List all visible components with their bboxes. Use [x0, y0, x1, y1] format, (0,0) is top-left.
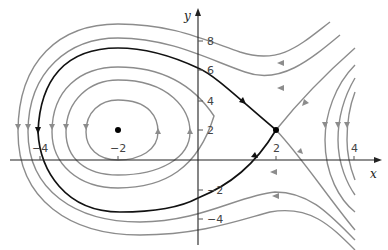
outer-orbits	[18, 22, 355, 250]
flow-arrows	[15, 60, 350, 199]
svg-text:−4: −4	[207, 213, 223, 226]
svg-text:6: 6	[207, 64, 214, 77]
svg-text:8: 8	[207, 35, 214, 48]
right-orbits	[325, 65, 355, 212]
x-ticks: −4 −2 2 4	[32, 142, 358, 160]
saddle-point	[273, 127, 279, 133]
svg-text:2: 2	[273, 142, 280, 155]
svg-text:−2: −2	[207, 184, 223, 197]
y-axis-label: y	[183, 9, 191, 23]
closed-orbits	[52, 67, 214, 188]
svg-text:4: 4	[207, 95, 214, 108]
saddle-branches	[276, 48, 355, 230]
y-ticks: 8 6 4 2 −2 −4	[198, 35, 223, 226]
svg-text:2: 2	[207, 124, 214, 137]
center-point	[115, 127, 121, 133]
svg-text:4: 4	[351, 142, 358, 155]
svg-text:−4: −4	[32, 142, 48, 155]
svg-text:−2: −2	[110, 142, 126, 155]
x-axis-label: x	[370, 167, 377, 181]
phase-portrait-svg: x y −4 −2 2 4 8 6 4 2 −2 −4	[0, 0, 388, 250]
phase-portrait-figure: x y −4 −2 2 4 8 6 4 2 −2 −4	[0, 0, 388, 250]
